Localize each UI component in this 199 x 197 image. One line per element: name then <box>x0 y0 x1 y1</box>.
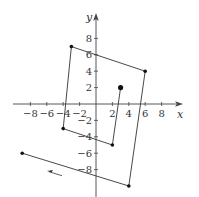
direction-arrow-shaft <box>49 172 62 176</box>
vertex-point <box>61 127 65 131</box>
x-tick-label: 2 <box>109 108 115 119</box>
annotation-layer <box>47 170 62 176</box>
y-tick-label: −4 <box>77 131 92 142</box>
x-tick-label: −4 <box>56 108 71 119</box>
y-tick-label: 6 <box>86 49 92 60</box>
chart: xy −8−6−4−224688642−2−4−6−8 <box>0 0 199 197</box>
vertex-point <box>143 69 147 73</box>
chart-svg: xy −8−6−4−224688642−2−4−6−8 <box>0 0 199 197</box>
y-tick-label: 8 <box>86 33 92 44</box>
x-axis-label: x <box>177 108 184 121</box>
x-tick-label: 6 <box>142 108 148 119</box>
x-tick-label: 4 <box>126 108 132 119</box>
vertex-point <box>111 143 115 147</box>
y-tick-label: 4 <box>86 66 92 77</box>
vertex-point <box>20 151 24 155</box>
y-axis-label: y <box>85 11 93 24</box>
vertex-point <box>127 184 131 188</box>
vertex-point <box>70 45 74 49</box>
axes: xy <box>13 11 184 197</box>
y-tick-label: −6 <box>77 148 92 159</box>
x-tick-label: −8 <box>23 108 38 119</box>
x-tick-label: −6 <box>39 108 54 119</box>
x-tick-label: 8 <box>158 108 164 119</box>
y-tick-label: 2 <box>86 82 92 93</box>
start-point <box>118 85 123 90</box>
y-tick-label: −8 <box>77 164 92 175</box>
y-tick-label: −2 <box>77 115 92 126</box>
